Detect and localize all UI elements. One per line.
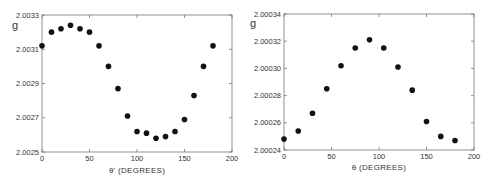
data-point bbox=[134, 129, 140, 135]
data-point bbox=[367, 37, 373, 43]
x-tick-label: 150 bbox=[420, 152, 433, 161]
data-point bbox=[39, 43, 45, 49]
data-point bbox=[409, 87, 415, 93]
data-point bbox=[58, 26, 64, 32]
y-tick-label: 2.0033 bbox=[16, 11, 39, 20]
data-point bbox=[210, 43, 216, 49]
x-tick-label: 50 bbox=[327, 152, 335, 161]
y-tick-label: 2.0029 bbox=[16, 79, 39, 88]
x-tick-label: 150 bbox=[178, 154, 191, 163]
data-point bbox=[295, 128, 301, 134]
data-point bbox=[49, 29, 55, 35]
data-point bbox=[324, 86, 330, 92]
y-axis-label: g bbox=[250, 17, 256, 29]
data-point bbox=[424, 119, 430, 125]
data-point bbox=[395, 64, 401, 70]
x-tick-label: 100 bbox=[373, 152, 386, 161]
x-tick-label: 200 bbox=[468, 152, 481, 161]
data-point bbox=[87, 29, 93, 35]
y-tick-label: 2.00024 bbox=[254, 146, 281, 155]
data-point bbox=[191, 93, 197, 99]
y-tick-label: 2.00028 bbox=[254, 91, 281, 100]
y-tick-label: 2.0031 bbox=[16, 45, 39, 54]
x-axis-label: θ (DEGREES) bbox=[352, 163, 406, 172]
y-tick-label: 2.0027 bbox=[16, 113, 39, 122]
data-point bbox=[381, 45, 387, 51]
data-point bbox=[68, 22, 74, 28]
figure: 0501001502002.00252.00272.00292.00312.00… bbox=[0, 0, 492, 186]
y-tick-label: 2.00034 bbox=[254, 10, 281, 19]
x-axis-label: θ' (DEGREES) bbox=[109, 166, 165, 175]
data-point bbox=[310, 110, 316, 116]
data-point bbox=[281, 136, 287, 142]
data-point bbox=[338, 63, 344, 69]
data-point bbox=[125, 113, 131, 119]
data-point bbox=[163, 134, 169, 140]
data-point bbox=[144, 130, 150, 136]
data-point bbox=[172, 129, 178, 135]
y-tick-label: 2.0025 bbox=[16, 148, 39, 157]
data-point bbox=[96, 43, 102, 49]
plot-frame bbox=[284, 14, 474, 150]
data-point bbox=[106, 64, 112, 70]
y-tick-label: 2.00032 bbox=[254, 37, 281, 46]
left-chart-panel: 0501001502002.00252.00272.00292.00312.00… bbox=[12, 11, 238, 176]
data-point bbox=[115, 86, 121, 92]
x-tick-label: 100 bbox=[131, 154, 144, 163]
data-point bbox=[201, 64, 207, 70]
right-chart-panel: 0501001502002.000242.000262.000282.00030… bbox=[250, 10, 480, 173]
x-tick-label: 0 bbox=[282, 152, 286, 161]
y-tick-label: 2.00026 bbox=[254, 118, 281, 127]
data-point bbox=[352, 45, 358, 51]
data-point bbox=[438, 134, 444, 140]
x-tick-label: 0 bbox=[40, 154, 44, 163]
data-point bbox=[182, 117, 188, 123]
data-point bbox=[77, 26, 83, 32]
y-axis-label: g bbox=[12, 19, 18, 31]
data-point bbox=[153, 136, 159, 142]
x-tick-label: 50 bbox=[85, 154, 93, 163]
data-point bbox=[452, 138, 458, 144]
y-tick-label: 2.00030 bbox=[254, 64, 281, 73]
x-tick-label: 200 bbox=[226, 154, 239, 163]
